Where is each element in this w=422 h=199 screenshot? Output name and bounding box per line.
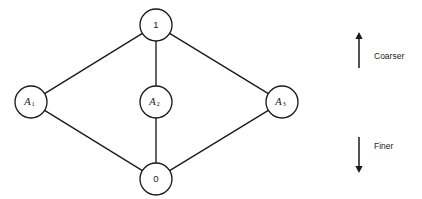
- lattice-edge: [170, 110, 269, 170]
- lattice-node-bottom: 0: [140, 163, 172, 195]
- lattice-diagram: 1A1A2A30 CoarserFiner: [0, 0, 422, 199]
- annotation-label-finer: Finer: [374, 141, 394, 151]
- annotation-label-coarser: Coarser: [374, 51, 404, 61]
- annotation-finer: Finer: [355, 137, 393, 173]
- arrow-head-finer-icon: [355, 166, 362, 173]
- annotation-coarser: Coarser: [355, 32, 404, 68]
- diagram-canvas: 1A1A2A30 CoarserFiner: [0, 0, 422, 199]
- lattice-edge: [45, 33, 143, 93]
- lattice-node-a3: A3: [266, 86, 298, 118]
- lattice-edge: [45, 110, 143, 170]
- lattice-node-top: 1: [140, 9, 172, 41]
- annotations-group: CoarserFiner: [355, 32, 404, 173]
- arrow-head-coarser-icon: [355, 32, 362, 39]
- lattice-node-a2: A2: [140, 86, 172, 118]
- node-label: 1: [153, 19, 158, 30]
- lattice-edge: [170, 33, 269, 93]
- node-label: 0: [153, 173, 158, 184]
- nodes-group: 1A1A2A30: [15, 9, 298, 195]
- lattice-node-a1: A1: [15, 86, 47, 118]
